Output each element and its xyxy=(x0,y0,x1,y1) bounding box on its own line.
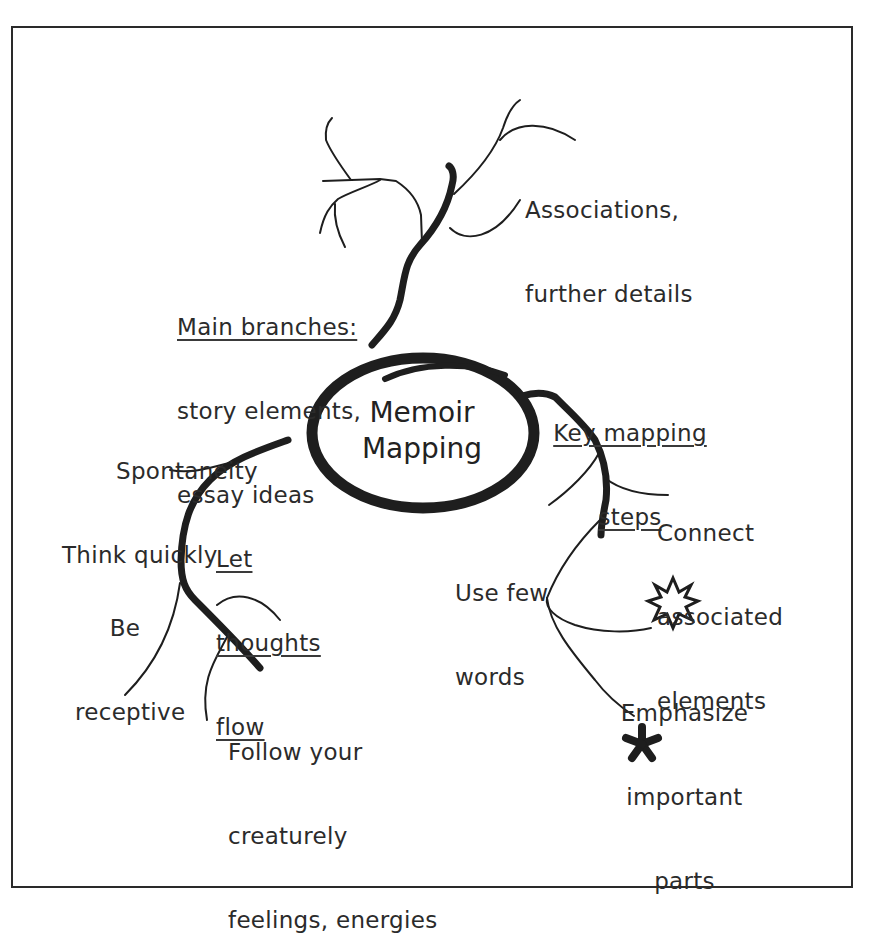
label-line: creaturely xyxy=(228,822,437,850)
label-line: receptive xyxy=(75,698,175,726)
label-line: parts xyxy=(597,867,772,895)
twigs-top-left xyxy=(320,118,422,247)
label-line: Connect xyxy=(657,519,783,547)
label-emphasize: Emphasize important parts xyxy=(597,643,772,923)
label-line: Associations, xyxy=(525,196,693,224)
label-line: Let xyxy=(216,546,252,572)
label-line: feelings, energies xyxy=(228,906,437,934)
label-line: thoughts xyxy=(216,630,321,656)
branch-main-top xyxy=(372,166,453,345)
label-line: further details xyxy=(525,280,693,308)
label-heading: Main branches: xyxy=(177,313,361,341)
label-line: Emphasize xyxy=(597,699,772,727)
label-use-few-words: Use few words xyxy=(455,523,548,719)
label-line: important xyxy=(597,783,772,811)
label-line: Use few xyxy=(455,579,548,607)
label-line: Follow your xyxy=(228,738,437,766)
label-line: associated xyxy=(657,603,783,631)
label-line: words xyxy=(455,663,548,691)
label-line: Spontaneity xyxy=(62,457,258,485)
label-follow-feelings: Follow your creaturely feelings, energie… xyxy=(228,682,437,937)
label-be-receptive: Be receptive xyxy=(75,558,175,754)
label-line: steps xyxy=(598,504,661,530)
label-line: Be xyxy=(75,614,175,642)
label-associations: Associations, further details xyxy=(525,140,693,336)
label-line: Key mapping xyxy=(553,420,707,446)
